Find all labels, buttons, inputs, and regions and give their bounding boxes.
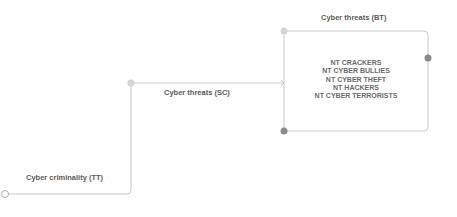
narrower-term[interactable]: NT CYBER TERRORISTS: [286, 92, 426, 100]
tt-start-node-icon[interactable]: [2, 191, 9, 198]
narrower-term[interactable]: NT CYBER BULLIES: [286, 67, 426, 75]
bt-node-icon[interactable]: [281, 28, 288, 35]
narrower-term[interactable]: NT CRACKERS: [286, 59, 426, 67]
narrower-terms-list: NT CRACKERS NT CYBER BULLIES NT CYBER TH…: [286, 59, 426, 100]
sc-label: Cyber threats (SC): [164, 88, 230, 97]
bt-label: Cyber threats (BT): [321, 13, 386, 22]
tt-label: Cyber criminality (TT): [26, 173, 103, 182]
thesaurus-hierarchy-diagram: [0, 0, 457, 217]
narrower-term[interactable]: NT HACKERS: [286, 84, 426, 92]
bt-bottom-node-icon[interactable]: [281, 128, 288, 135]
narrower-term[interactable]: NT CYBER THEFT: [286, 76, 426, 84]
sc-node-icon[interactable]: [128, 80, 135, 87]
